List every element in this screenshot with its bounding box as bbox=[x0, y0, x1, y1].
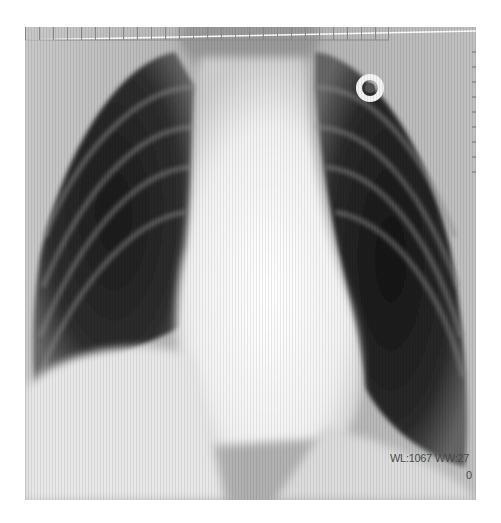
window-level-label: WL:1067 WW:27 bbox=[390, 452, 469, 464]
measurement-ruler bbox=[25, 27, 389, 41]
overlay-second-line: 0 bbox=[466, 469, 472, 481]
xray-film: WL:1067 WW:27 0 bbox=[25, 27, 476, 500]
xray-image bbox=[25, 27, 476, 500]
